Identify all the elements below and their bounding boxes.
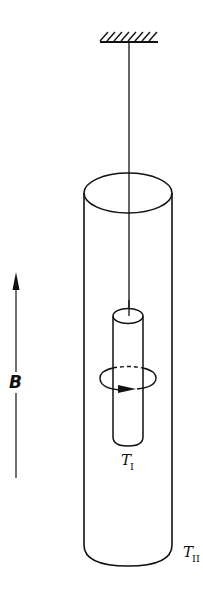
inner-cylinder: [113, 300, 143, 446]
ceiling-support: [100, 32, 158, 42]
inner-cylinder-label: TI: [121, 452, 134, 468]
arrow-up-icon: [13, 272, 20, 290]
outer-label-sub: II: [192, 553, 200, 564]
torsion-pendulum-diagram: [0, 0, 203, 590]
outer-cylinder-label: TII: [183, 544, 200, 560]
field-label-b: B: [9, 372, 22, 393]
inner-label-sub: I: [130, 461, 134, 472]
